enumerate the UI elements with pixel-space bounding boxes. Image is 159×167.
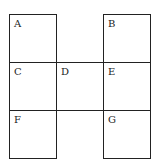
cell-label: G [108,114,116,125]
cell-label: F [14,114,21,125]
cell-e: E [103,62,151,111]
cell-label: D [61,66,69,77]
cell-c: C [9,62,57,111]
cell-f: F [9,110,57,159]
cell-label: B [108,18,115,29]
cell-label: C [14,66,22,77]
cell-d: D [56,62,104,111]
cell-label: A [14,18,21,29]
cell-label: E [108,66,115,77]
cell-a: A [9,14,57,63]
cell-g: G [103,110,151,159]
cell-b: B [103,14,151,63]
